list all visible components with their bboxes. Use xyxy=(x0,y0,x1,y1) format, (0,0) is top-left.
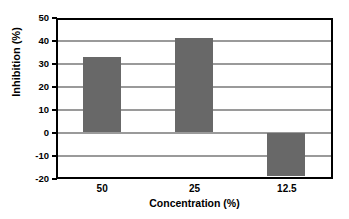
y-axis-tick-label: 40 xyxy=(23,36,49,46)
bar xyxy=(175,38,213,132)
bar xyxy=(83,57,121,133)
y-axis-tick-labels: 50403020100-10-20 xyxy=(20,0,49,219)
x-axis-tick-label: 50 xyxy=(67,182,137,195)
plot-area xyxy=(56,18,333,179)
bar xyxy=(267,133,305,177)
y-axis-tick-label: 20 xyxy=(23,82,49,92)
x-axis-tick-label: 12.5 xyxy=(252,182,322,195)
x-axis-title: Concentration (%) xyxy=(56,197,333,210)
y-axis-tick-label: -20 xyxy=(23,174,49,184)
y-axis-tick-label: 30 xyxy=(23,59,49,69)
y-axis-tick-label: 0 xyxy=(23,128,49,138)
y-axis-tick-label: 10 xyxy=(23,105,49,115)
x-axis-tick-label: 25 xyxy=(160,182,230,195)
y-axis-tick-label: -10 xyxy=(23,151,49,161)
x-axis-tick-labels: 502512.5 xyxy=(56,182,333,196)
y-axis-tick-label: 50 xyxy=(23,13,49,23)
bar-chart: Inhibition (%) 50403020100-10-20 502512.… xyxy=(0,0,349,219)
